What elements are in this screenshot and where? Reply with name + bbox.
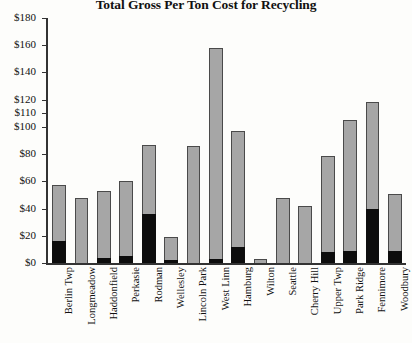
x-axis-tick-label: Park Ridge: [354, 267, 365, 314]
y-axis-tick-label: $40: [0, 203, 36, 214]
x-axis-labels: Berlin TwpLongmeadowHaddonfieldPerkasieR…: [48, 267, 406, 343]
x-axis-tick-label: Woodbury: [399, 267, 410, 311]
chart-title: Total Gross Per Ton Cost for Recycling: [0, 0, 412, 13]
bar-segment-lower: [231, 247, 245, 263]
bar-segment-upper: [164, 237, 178, 260]
x-axis-tick-label: Upper Twp: [332, 267, 343, 314]
bar: [142, 145, 156, 263]
bar: [187, 146, 201, 263]
y-axis-tick-mark: [42, 113, 48, 114]
x-axis-tick-label: West Linn: [220, 267, 231, 310]
bar-segment-upper: [187, 146, 201, 263]
bar-segment-upper: [231, 131, 245, 247]
y-axis-tick-mark: [42, 181, 48, 182]
bar: [164, 237, 178, 263]
bar-segment-upper: [388, 194, 402, 251]
bar: [231, 131, 245, 263]
y-axis-tick-label: $160: [0, 39, 36, 50]
y-axis-tick-mark: [42, 263, 48, 264]
bar-segment-lower: [366, 209, 380, 263]
bar-segment-upper: [321, 156, 335, 253]
bar-segment-upper: [276, 198, 290, 263]
x-axis-tick-label: Longmeadow: [86, 267, 97, 325]
bar-segment-lower: [52, 241, 66, 263]
y-axis-tick-label: $20: [0, 230, 36, 241]
plot-area: $180$160$140$120$110$100$80$60$40$20$0: [46, 18, 406, 265]
y-axis-tick-mark: [42, 236, 48, 237]
bar-segment-upper: [52, 185, 66, 241]
bar: [366, 102, 380, 263]
bar: [52, 185, 66, 263]
x-axis-tick-label: Perkasie: [130, 267, 141, 303]
y-axis-tick-label: $180: [0, 12, 36, 23]
bar-segment-upper: [343, 120, 357, 251]
x-axis-tick-label: Lincoln Park: [197, 267, 208, 322]
bar: [298, 206, 312, 263]
bar-segment-lower: [119, 256, 133, 263]
bar-segment-lower: [343, 251, 357, 263]
x-axis-tick-label: Wilton: [265, 267, 276, 296]
bar: [75, 198, 89, 263]
bar: [254, 259, 268, 263]
y-axis-tick-label: $60: [0, 175, 36, 186]
x-axis-tick-label: Hamburg: [242, 267, 253, 306]
bar-segment-upper: [97, 191, 111, 258]
bar-segment-upper: [119, 181, 133, 256]
bar-segment-upper: [298, 206, 312, 263]
bar-segment-upper: [254, 259, 268, 263]
x-axis-tick-label: Haddonfield: [108, 267, 119, 320]
x-axis-tick-label: Wellesley: [175, 267, 186, 308]
x-axis-tick-label: Rodman: [153, 267, 164, 303]
chart-container: Total Gross Per Ton Cost for Recycling $…: [0, 0, 412, 343]
bar-segment-upper: [366, 102, 380, 208]
y-axis-tick-label: $100: [0, 121, 36, 132]
y-axis-tick-label: $110: [0, 107, 36, 118]
bar: [321, 156, 335, 264]
x-axis-tick-label: Cherry Hill: [309, 267, 320, 315]
bar-group: [48, 18, 406, 265]
bar-segment-lower: [321, 252, 335, 263]
x-axis-tick-label: Berlin Twp: [63, 267, 74, 314]
y-axis-tick-label: $80: [0, 148, 36, 159]
x-axis-tick-label: Fennimore: [376, 267, 387, 313]
bar-segment-upper: [75, 198, 89, 263]
y-axis-tick-label: $120: [0, 94, 36, 105]
y-axis-tick-mark: [42, 154, 48, 155]
bar-segment-upper: [209, 48, 223, 259]
y-axis-tick-mark: [42, 18, 48, 19]
bar: [97, 191, 111, 263]
bar: [343, 120, 357, 263]
bar-segment-upper: [142, 145, 156, 214]
bar-segment-lower: [164, 260, 178, 263]
y-axis-tick-mark: [42, 209, 48, 210]
bar: [276, 198, 290, 263]
bar: [209, 48, 223, 263]
y-axis-tick-mark: [42, 127, 48, 128]
y-axis-tick-label: $0: [0, 257, 36, 268]
x-axis-tick-label: Seattle: [287, 267, 298, 296]
bar-segment-lower: [97, 258, 111, 263]
y-axis-tick-mark: [42, 45, 48, 46]
bar-segment-lower: [142, 214, 156, 263]
bar: [119, 181, 133, 263]
bar-segment-lower: [209, 259, 223, 263]
y-axis-tick-mark: [42, 100, 48, 101]
bar: [388, 194, 402, 263]
bar-segment-lower: [388, 251, 402, 263]
y-axis-tick-mark: [42, 72, 48, 73]
y-axis-tick-label: $140: [0, 66, 36, 77]
